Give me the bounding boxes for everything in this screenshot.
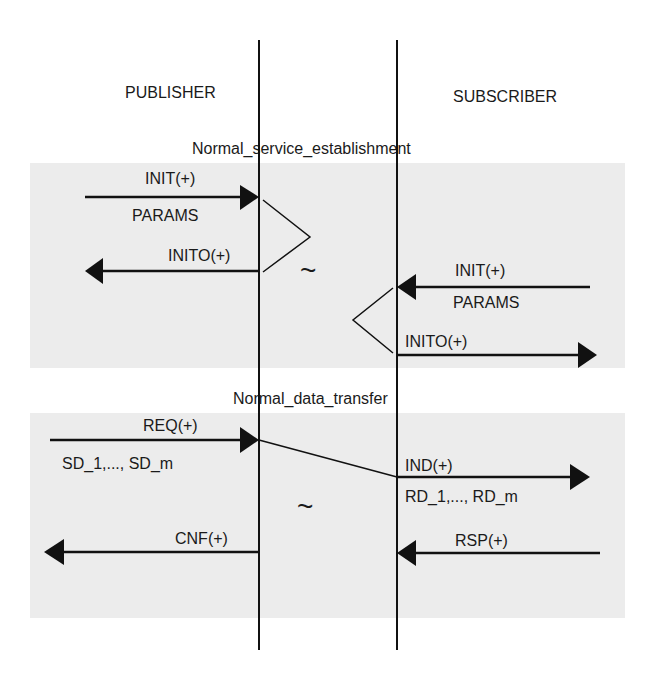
section-bg-service-establishment xyxy=(30,163,625,368)
label-rsp: RSP(+) xyxy=(455,532,508,549)
label-ind: IND(+) xyxy=(405,457,453,474)
participant-publisher: PUBLISHER xyxy=(125,84,216,101)
label-inito-subscriber: INITO(+) xyxy=(405,333,467,350)
label-init-subscriber: INIT(+) xyxy=(455,262,505,279)
section-bg-data-transfer xyxy=(30,413,625,618)
gap-symbol-2: ~ xyxy=(297,491,313,522)
label-sd-params: SD_1,..., SD_m xyxy=(62,455,173,473)
label-inito-publisher: INITO(+) xyxy=(168,247,230,264)
section-title-service-establishment: Normal_service_establishment xyxy=(192,140,411,158)
label-rd-params: RD_1,..., RD_m xyxy=(405,488,518,506)
participant-subscriber: SUBSCRIBER xyxy=(453,88,557,105)
label-cnf: CNF(+) xyxy=(175,530,228,547)
section-title-data-transfer: Normal_data_transfer xyxy=(233,390,388,408)
label-params-publisher: PARAMS xyxy=(132,207,198,224)
label-init-publisher: INIT(+) xyxy=(145,170,195,187)
gap-symbol-1: ~ xyxy=(300,255,316,286)
label-params-subscriber: PARAMS xyxy=(453,294,519,311)
label-req: REQ(+) xyxy=(143,417,198,434)
sequence-diagram: PUBLISHER SUBSCRIBER Normal_service_esta… xyxy=(0,0,645,674)
